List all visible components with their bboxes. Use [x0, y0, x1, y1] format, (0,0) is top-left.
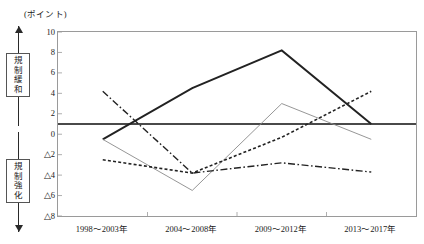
- arrow-up-icon: [15, 26, 23, 33]
- y-axis-tick-label: 2: [33, 109, 55, 118]
- x-axis-tick-label: 2013～2017年: [315, 224, 424, 234]
- y-axis-tick-label: 8: [33, 48, 55, 57]
- y-axis-tick-label: 4: [33, 89, 55, 98]
- series-line-series-3: [103, 91, 372, 173]
- y-axis-tick-label: 10: [33, 28, 55, 37]
- y-axis-labels: 1086420△2△4△6△8: [31, 0, 55, 244]
- plot-area: [57, 31, 417, 217]
- annot-char: 和: [7, 85, 29, 95]
- annotation-deregulation: 規 制 緩 和: [6, 26, 32, 126]
- annot-char: 化: [7, 191, 29, 201]
- annotation-deregulation-label: 規 制 緩 和: [6, 53, 30, 97]
- y-axis-tick-label: △6: [33, 191, 55, 200]
- chart-svg: [58, 32, 416, 216]
- x-axis-labels: 1998～2003年2004～2008年2009～2012年2013～2017年: [57, 224, 417, 240]
- y-axis-tick-label: 0: [33, 130, 55, 139]
- annotation-tightening-label: 規 制 強 化: [6, 159, 30, 203]
- y-axis-tick-label: △4: [33, 171, 55, 180]
- y-axis-tick-label: △2: [33, 150, 55, 159]
- annotation-tightening: 規 制 強 化: [6, 132, 32, 232]
- y-axis-tick-label: 6: [33, 68, 55, 77]
- figure-title: [0, 0, 424, 2]
- chart-page: (ポイント) 規 制 緩 和 規 制 強 化 1086420△2△4△6△8 1…: [0, 0, 424, 244]
- series-line-series-1: [103, 50, 372, 139]
- series-line-series-4: [103, 91, 372, 173]
- arrow-down-icon: [15, 225, 23, 232]
- y-axis-tick-label: △8: [33, 212, 55, 221]
